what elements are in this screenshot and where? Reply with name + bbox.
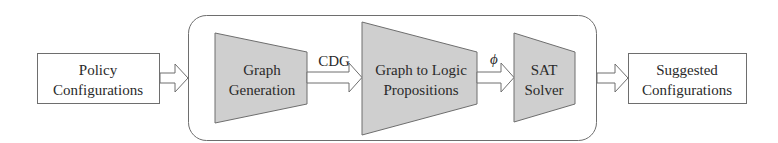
hollow-arrow-icon xyxy=(160,64,188,92)
stage-3-line1: SAT xyxy=(531,62,558,78)
suggested-configurations-box: Suggested Configurations xyxy=(629,54,747,104)
output-box-line2: Configurations xyxy=(642,82,732,98)
output-box-line1: Suggested xyxy=(656,62,718,78)
stage-2-line1: Graph to Logic xyxy=(375,62,467,78)
stage-1-line1: Graph xyxy=(243,62,281,78)
policy-configurations-box: Policy Configurations xyxy=(38,54,160,104)
stage-1-line2: Generation xyxy=(229,82,296,98)
input-box-line1: Policy xyxy=(79,62,118,78)
stage-2-line2: Propositions xyxy=(383,82,458,98)
stage-graph-to-logic-propositions: Graph to Logic Propositions xyxy=(362,22,477,135)
stage-graph-generation: Graph Generation xyxy=(215,33,307,123)
stage-3-line2: Solver xyxy=(524,82,563,98)
stage-sat-solver: SAT Solver xyxy=(514,33,575,122)
pipeline-diagram: Policy Configurations Graph Generation C… xyxy=(0,0,778,143)
edge-label-cdg: CDG xyxy=(318,53,350,69)
hollow-arrow-icon xyxy=(477,63,514,92)
input-box-line2: Configurations xyxy=(53,82,143,98)
hollow-arrow-icon xyxy=(597,64,628,92)
edge-label-phi: ϕ xyxy=(490,51,498,67)
